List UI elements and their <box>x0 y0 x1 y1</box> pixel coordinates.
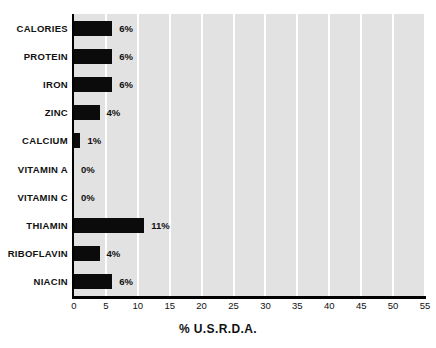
bar-value-label: 0% <box>81 192 95 203</box>
x-tick-label: 15 <box>164 300 175 311</box>
bar-value-label: 1% <box>87 135 101 146</box>
x-axis-ticks: 0510152025303540455055 <box>0 300 436 316</box>
category-label: IRON <box>0 79 68 90</box>
bar <box>74 49 112 64</box>
bar-row: CALORIES6% <box>0 14 436 42</box>
bar-row: ZINC4% <box>0 99 436 127</box>
bar-row: VITAMIN C0% <box>0 183 436 211</box>
bar-value-label: 6% <box>119 51 133 62</box>
bar-rows: CALORIES6%PROTEIN6%IRON6%ZINC4%CALCIUM1%… <box>0 14 436 296</box>
x-tick-label: 30 <box>260 300 271 311</box>
x-tick-label: 10 <box>133 300 144 311</box>
x-tick-label: 20 <box>196 300 207 311</box>
bar-chart: CALORIES6%PROTEIN6%IRON6%ZINC4%CALCIUM1%… <box>0 0 436 348</box>
bar-row: NIACIN6% <box>0 268 436 296</box>
x-tick-label: 5 <box>103 300 108 311</box>
category-label: ZINC <box>0 107 68 118</box>
bar <box>74 77 112 92</box>
bar-value-label: 11% <box>151 220 170 231</box>
category-label: VITAMIN C <box>0 192 68 203</box>
bar <box>74 246 100 261</box>
bar-value-label: 0% <box>81 164 95 175</box>
x-tick-label: 45 <box>356 300 367 311</box>
bar-value-label: 4% <box>107 107 121 118</box>
x-axis-line <box>72 296 426 299</box>
category-label: VITAMIN A <box>0 164 68 175</box>
x-tick-label: 35 <box>292 300 303 311</box>
bar-value-label: 6% <box>119 79 133 90</box>
bar <box>74 274 112 289</box>
x-tick-label: 50 <box>388 300 399 311</box>
category-label: NIACIN <box>0 276 68 287</box>
bar-value-label: 6% <box>119 23 133 34</box>
category-label: PROTEIN <box>0 51 68 62</box>
x-tick-label: 40 <box>324 300 335 311</box>
x-tick-label: 55 <box>420 300 431 311</box>
x-axis-title: % U.S.R.D.A. <box>0 322 436 336</box>
category-label: THIAMIN <box>0 220 68 231</box>
x-tick-label: 0 <box>71 300 76 311</box>
bar-row: IRON6% <box>0 70 436 98</box>
bar <box>74 105 100 120</box>
bar-row: CALCIUM1% <box>0 127 436 155</box>
category-label: RIBOFLAVIN <box>0 248 68 259</box>
bar-value-label: 6% <box>119 276 133 287</box>
bar-row: VITAMIN A0% <box>0 155 436 183</box>
x-tick-label: 25 <box>228 300 239 311</box>
bar <box>74 218 144 233</box>
bar-row: RIBOFLAVIN4% <box>0 240 436 268</box>
bar-value-label: 4% <box>107 248 121 259</box>
bar <box>74 21 112 36</box>
bar <box>74 133 80 148</box>
category-label: CALORIES <box>0 23 68 34</box>
bar-row: PROTEIN6% <box>0 42 436 70</box>
bar-row: THIAMIN11% <box>0 211 436 239</box>
category-label: CALCIUM <box>0 135 68 146</box>
